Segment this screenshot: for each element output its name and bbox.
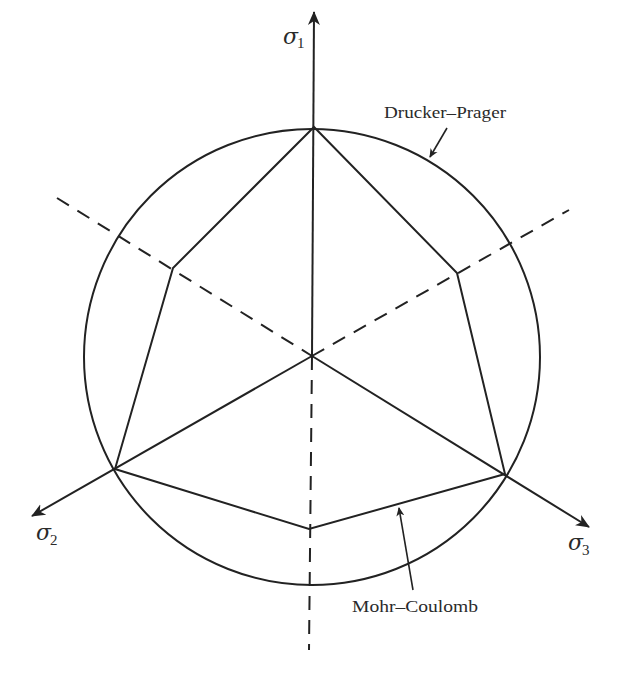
sigma1-axis (312, 12, 314, 356)
principal-axes (32, 12, 589, 527)
drucker-prager-label: Drucker–Prager (384, 103, 506, 122)
dashed-axis-upper-right (312, 210, 569, 356)
mohr-coulomb-hexagon (115, 127, 505, 529)
yield-surface-diagram: σ 1 σ 2 σ 3 Drucker–Prager Mohr–Coulomb (0, 0, 620, 679)
sigma3-axis (312, 356, 589, 527)
sigma2-axis (32, 356, 312, 516)
mohr-coulomb-label: Mohr–Coulomb (352, 597, 478, 616)
sigma2-subscript: 2 (50, 532, 58, 548)
dashed-axis-upper-left (57, 198, 312, 356)
dashed-axis-bottom (309, 356, 312, 650)
sigma1-label: σ 1 (283, 24, 305, 51)
sigma1-subscript: 1 (297, 35, 305, 51)
sigma3-subscript: 3 (582, 542, 590, 558)
drucker-prager-leader-arrow (430, 128, 447, 157)
sigma2-label: σ 2 (36, 520, 58, 548)
sigma3-label: σ 3 (568, 530, 590, 558)
mohr-coulomb-leader-arrow (399, 508, 413, 590)
